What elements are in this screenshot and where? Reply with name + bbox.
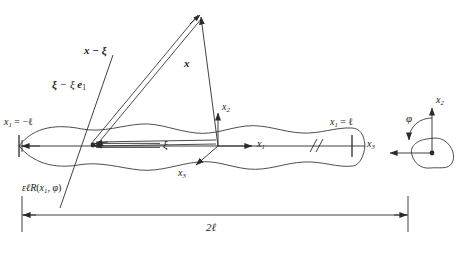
vector-x-minus-xi	[91, 15, 202, 147]
vector-x-line	[201, 17, 218, 146]
label-axis-x1: x1	[257, 139, 265, 151]
label-x1-left: x1 = −ℓ	[4, 117, 33, 129]
label-vector-x: x	[184, 58, 190, 69]
label-length-2l: 2ℓ	[206, 222, 216, 233]
label-inset-x2: x2	[436, 95, 444, 107]
diagram-canvas	[0, 0, 462, 261]
label-axis-x3: x3	[178, 168, 186, 180]
label-x-minus-xi: x − ξ	[84, 45, 107, 56]
label-radius-function: εℓR(x1, φ)	[22, 183, 61, 195]
axis-break-marks	[310, 139, 323, 152]
label-inset-phi: φ	[406, 113, 412, 124]
label-x1-right: x1 = ℓ	[330, 117, 353, 129]
label-inset-x3: x3	[367, 139, 375, 151]
figure-root: x − ξ ξ − ξ e1 x x1 = −ℓ x1 = ℓ ξ x1 x2 …	[0, 0, 462, 261]
label-xi-minus-xi-e1: ξ − ξ e1	[52, 79, 86, 92]
inset-cross-section	[390, 108, 454, 168]
foot-point-marker	[91, 143, 96, 148]
label-axis-x2: x2	[222, 102, 230, 114]
label-xi-center: ξ	[163, 139, 168, 150]
